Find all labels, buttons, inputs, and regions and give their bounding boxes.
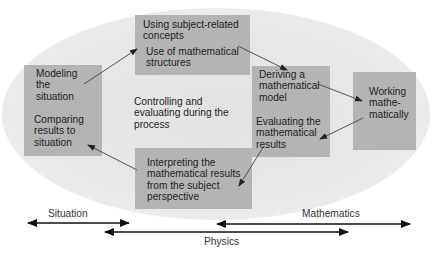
range-label-mathematics: Mathematics (302, 208, 360, 219)
arrow-working-to-evaluating (320, 118, 363, 139)
range-label-physics: Physics (204, 236, 239, 247)
arrow-deriving-to-working (318, 84, 362, 101)
range-label-situation: Situation (48, 208, 88, 219)
arrow-evaluating-to-interpreting (239, 146, 264, 186)
arrow-modeling-to-concepts (84, 49, 137, 84)
arrow-interpreting-to-comparing (88, 145, 137, 170)
arrow-concepts-to-deriving (238, 46, 287, 70)
